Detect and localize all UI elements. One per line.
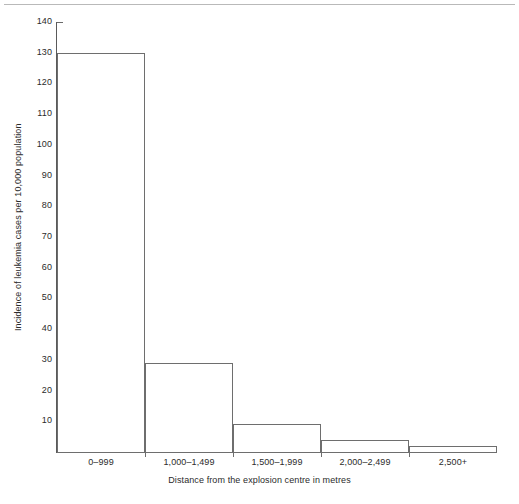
x-axis-tick-label: 2,000–2,499 — [321, 457, 409, 468]
x-axis-tick-label: 1,500–1,999 — [233, 457, 321, 468]
y-axis-tick-label-text: 120 — [26, 78, 52, 87]
y-axis-tick-label: 90 — [24, 171, 52, 180]
y-axis-tick-label: 120 — [24, 78, 52, 87]
y-axis-tick-label: 110 — [24, 109, 52, 118]
bar — [145, 363, 233, 453]
bar — [233, 424, 321, 453]
y-axis-tick-label: 50 — [24, 293, 52, 302]
y-axis-tick-label: 20 — [24, 386, 52, 395]
y-axis-tick-label: 60 — [24, 263, 52, 272]
y-axis-tick-label: 40 — [24, 324, 52, 333]
y-axis-tick-label-text: 50 — [26, 293, 52, 302]
y-axis-tick-label: 140 — [24, 17, 52, 26]
y-axis-tick-label: 30 — [24, 355, 52, 364]
x-axis-tick-label: 0–999 — [57, 457, 145, 468]
y-axis-tick-label-text: 40 — [26, 324, 52, 333]
bar — [57, 53, 145, 453]
y-axis-tick-label: 130 — [24, 48, 52, 57]
y-axis-tick-label-text: 130 — [26, 48, 52, 57]
x-axis-title: Distance from the explosion centre in me… — [0, 475, 519, 485]
y-axis-tick-label-text: 110 — [26, 109, 52, 118]
y-axis-tick-label-text: 100 — [26, 140, 52, 149]
y-axis-tick-label-text: 140 — [26, 17, 52, 26]
bar — [409, 446, 497, 453]
y-axis-tick-label-text: 80 — [26, 201, 52, 210]
y-axis-tick-label-text: 60 — [26, 263, 52, 272]
y-axis-tick — [57, 22, 63, 23]
bar — [321, 440, 409, 453]
y-axis-tick-label: 80 — [24, 201, 52, 210]
y-axis-tick-label: 10 — [24, 416, 52, 425]
top-divider-rule — [4, 4, 515, 5]
x-axis-tick-label: 1,000–1,499 — [145, 457, 233, 468]
y-axis-tick-label: 100 — [24, 140, 52, 149]
y-axis-tick-label: 70 — [24, 232, 52, 241]
y-axis-tick-label-text: 10 — [26, 416, 52, 425]
y-axis-tick-label-text: 70 — [26, 232, 52, 241]
chart-figure: Incidence of leukemia cases per 10,000 p… — [0, 0, 519, 504]
y-axis-tick-label-text: 30 — [26, 355, 52, 364]
y-axis-title: Incidence of leukemia cases per 10,000 p… — [13, 131, 23, 331]
y-axis-tick-label-text: 20 — [26, 386, 52, 395]
y-axis-tick-label-text: 90 — [26, 171, 52, 180]
x-axis-tick-label: 2,500+ — [409, 457, 497, 468]
